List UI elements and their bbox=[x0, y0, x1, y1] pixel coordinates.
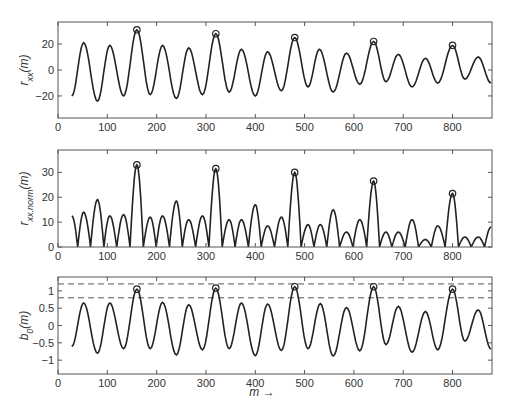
x-tick-label: 500 bbox=[295, 250, 313, 262]
x-tick-label: 0 bbox=[55, 377, 61, 389]
y-tick-label: 30 bbox=[42, 166, 54, 178]
axes-box bbox=[58, 150, 492, 247]
y-tick-label: 0 bbox=[48, 320, 54, 332]
x-axis-label: m → bbox=[249, 385, 274, 399]
series-line bbox=[72, 165, 491, 247]
series-line bbox=[72, 287, 491, 356]
axes-box bbox=[58, 277, 492, 374]
x-tick-label: 0 bbox=[55, 250, 61, 262]
y-tick-label: −0.5 bbox=[32, 337, 54, 349]
panel-rxx: 0100200300400500600700800−20020rxx(m) bbox=[17, 22, 492, 133]
x-tick-label: 700 bbox=[394, 377, 412, 389]
y-tick-label: 10 bbox=[42, 216, 54, 228]
y-axis-label: rxx(m) bbox=[17, 55, 35, 86]
x-tick-label: 500 bbox=[295, 121, 313, 133]
y-axis-label: rxx,norm(m) bbox=[17, 171, 35, 225]
panel-rxx-norm: 01002003004005006007008000102030rxx,norm… bbox=[17, 150, 492, 262]
series-line bbox=[72, 30, 491, 101]
x-tick-label: 800 bbox=[443, 377, 461, 389]
y-tick-label: 0 bbox=[48, 241, 54, 253]
x-tick-label: 200 bbox=[147, 121, 165, 133]
x-tick-label: 700 bbox=[394, 121, 412, 133]
y-tick-label: 20 bbox=[42, 191, 54, 203]
x-tick-label: 200 bbox=[147, 250, 165, 262]
x-tick-label: 400 bbox=[246, 121, 264, 133]
x-tick-label: 400 bbox=[246, 250, 264, 262]
x-tick-label: 0 bbox=[55, 121, 61, 133]
y-tick-label: 0 bbox=[48, 64, 54, 76]
x-tick-label: 300 bbox=[197, 250, 215, 262]
x-tick-label: 100 bbox=[98, 121, 116, 133]
x-tick-label: 600 bbox=[345, 377, 363, 389]
x-tick-label: 200 bbox=[147, 377, 165, 389]
y-tick-label: 0.5 bbox=[39, 302, 54, 314]
x-tick-label: 100 bbox=[98, 377, 116, 389]
x-tick-label: 300 bbox=[197, 377, 215, 389]
x-tick-label: 100 bbox=[98, 250, 116, 262]
x-tick-label: 500 bbox=[295, 377, 313, 389]
y-tick-label: −1 bbox=[41, 354, 54, 366]
x-tick-label: 700 bbox=[394, 250, 412, 262]
x-tick-label: 300 bbox=[197, 121, 215, 133]
y-tick-label: 1 bbox=[48, 285, 54, 297]
panel-b0: 0100200300400500600700800−1−0.500.51b0(m… bbox=[17, 277, 492, 389]
x-tick-label: 800 bbox=[443, 250, 461, 262]
x-tick-label: 800 bbox=[443, 121, 461, 133]
y-tick-label: 20 bbox=[42, 38, 54, 50]
figure: 0100200300400500600700800−20020rxx(m) 01… bbox=[0, 0, 515, 415]
y-tick-label: −20 bbox=[35, 90, 54, 102]
x-tick-label: 600 bbox=[345, 121, 363, 133]
x-tick-label: 600 bbox=[345, 250, 363, 262]
